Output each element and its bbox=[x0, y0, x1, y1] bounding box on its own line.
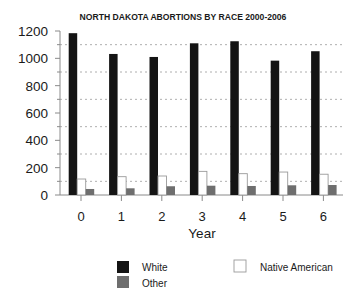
bar-native-american bbox=[239, 174, 248, 195]
bar-other bbox=[328, 185, 337, 195]
bar-other bbox=[86, 189, 95, 195]
bar-white bbox=[69, 33, 78, 195]
y-tick-label: 1200 bbox=[18, 24, 48, 39]
bar-white bbox=[230, 41, 239, 195]
x-tick-label: 0 bbox=[77, 209, 84, 224]
y-tick-label: 1000 bbox=[18, 51, 48, 66]
x-tick-label: 5 bbox=[279, 209, 286, 224]
legend-label: White bbox=[142, 262, 168, 273]
bar-native-american bbox=[158, 176, 167, 195]
y-tick-label: 400 bbox=[25, 133, 48, 148]
x-tick-label: 6 bbox=[320, 209, 327, 224]
x-tick-label: 3 bbox=[199, 209, 206, 224]
legend-swatch bbox=[234, 260, 246, 272]
bars bbox=[69, 33, 337, 195]
gridlines bbox=[60, 45, 343, 182]
y-axis: 020040060080010001200 bbox=[18, 24, 60, 203]
bar-other bbox=[167, 186, 176, 195]
bar-white bbox=[150, 57, 159, 195]
legend-swatch bbox=[117, 261, 129, 273]
bar-other bbox=[288, 185, 297, 195]
bar-other bbox=[207, 186, 216, 195]
bar-other bbox=[247, 186, 256, 195]
legend-label: Native American bbox=[260, 262, 333, 273]
y-tick-label: 200 bbox=[25, 161, 48, 176]
bar-native-american bbox=[198, 171, 207, 195]
bar-white bbox=[311, 51, 320, 195]
bar-native-american bbox=[77, 179, 86, 195]
x-tick-label: 1 bbox=[118, 209, 125, 224]
x-tick-label: 4 bbox=[239, 209, 246, 224]
y-tick-label: 800 bbox=[25, 79, 48, 94]
y-tick-label: 600 bbox=[25, 106, 48, 121]
bar-native-american bbox=[279, 172, 288, 195]
bar-white bbox=[109, 54, 118, 195]
bar-white bbox=[190, 43, 199, 195]
bar-native-american bbox=[118, 177, 127, 195]
bar-other bbox=[126, 188, 135, 195]
legend: WhiteNative AmericanOther bbox=[117, 260, 333, 289]
bar-white bbox=[271, 61, 280, 195]
x-axis-label: Year bbox=[188, 226, 216, 241]
x-tick-label: 2 bbox=[158, 209, 165, 224]
chart-title: NORTH DAKOTA ABORTIONS BY RACE 2000-2006 bbox=[80, 12, 287, 22]
legend-label: Other bbox=[142, 278, 168, 289]
x-axis: 0123456 bbox=[60, 195, 343, 224]
y-tick-label: 0 bbox=[40, 188, 48, 203]
legend-swatch bbox=[117, 276, 129, 288]
bar-chart: NORTH DAKOTA ABORTIONS BY RACE 2000-2006… bbox=[0, 0, 357, 291]
bar-native-american bbox=[320, 174, 329, 195]
